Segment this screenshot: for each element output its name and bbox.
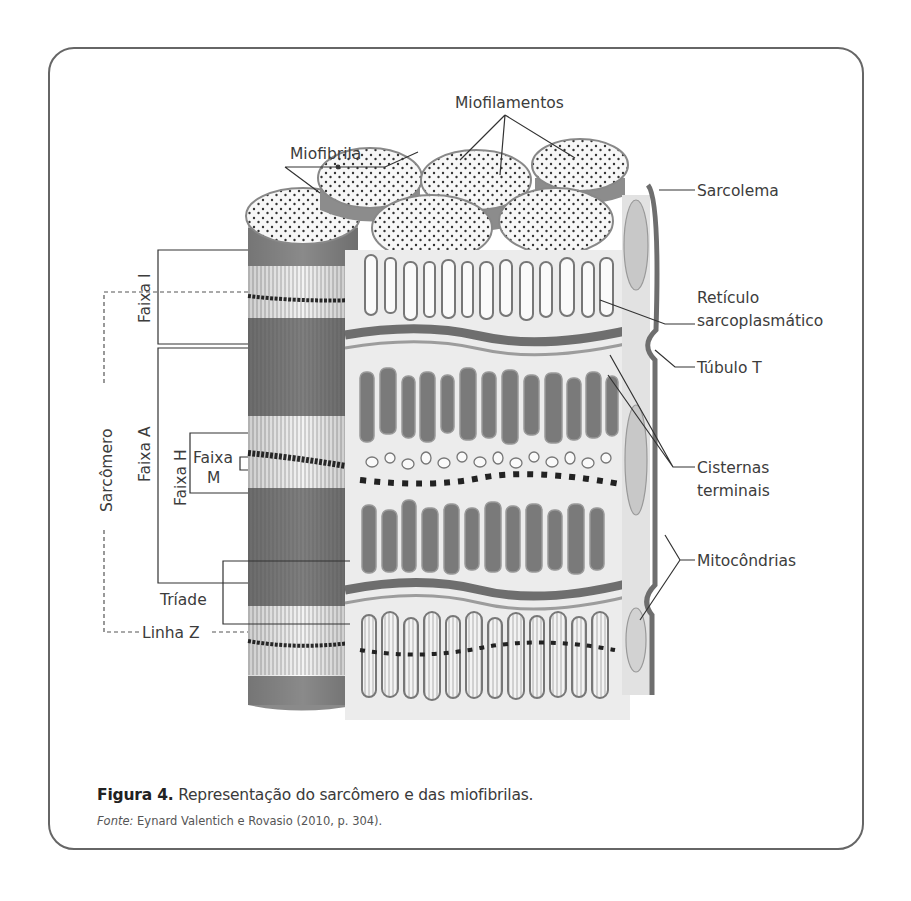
label-faixa-m-2: M (207, 469, 220, 487)
label-faixa-h: Faixa H (172, 449, 190, 506)
label-faixa-i: Faixa I (136, 274, 154, 323)
label-linha-z: Linha Z (142, 624, 200, 642)
label-faixa-a: Faixa A (136, 426, 154, 482)
caption-label: Figura 4. (97, 786, 173, 804)
label-sarcolema: Sarcolema (697, 182, 779, 200)
myofibril-caps (318, 139, 628, 261)
caption-text: Representação do sarcômero e das miofibr… (173, 786, 533, 804)
sarcolemma (622, 185, 657, 695)
label-cisternas-2: terminais (697, 482, 770, 500)
label-tubulo-t: Túbulo T (696, 359, 762, 377)
source-text: Eynard Valentich e Rovasio (2010, p. 304… (133, 814, 382, 828)
label-faixa-m-1: Faixa (193, 449, 233, 467)
label-reticulo-1: Retículo (697, 289, 759, 307)
sarcomere-illustration: Miofibrila Miofilamentos Sarcolema Retíc… (0, 0, 911, 901)
sarcoplasm-body (345, 250, 630, 720)
label-mitocondrias: Mitocôndrias (697, 552, 796, 570)
label-sarcomero: Sarcômero (98, 428, 116, 512)
label-cisternas-1: Cisternas (697, 459, 769, 477)
source-label: Fonte: (97, 814, 133, 828)
myofibril-cylinder (246, 188, 360, 711)
label-miofibrila: Miofibrila (290, 145, 361, 163)
figure-source: Fonte: Eynard Valentich e Rovasio (2010,… (97, 814, 382, 828)
label-miofilamentos: Miofilamentos (455, 94, 564, 112)
label-reticulo-2: sarcoplasmático (697, 312, 823, 330)
figure-caption: Figura 4. Representação do sarcômero e d… (97, 786, 533, 804)
label-triade: Tríade (159, 591, 207, 609)
